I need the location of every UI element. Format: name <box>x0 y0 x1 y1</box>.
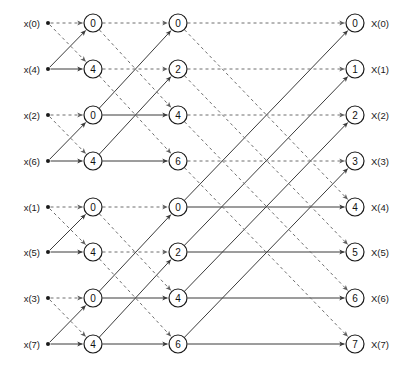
edge-cross-stage2-row4 <box>99 215 170 291</box>
twiddle-index-label: 4 <box>90 247 96 258</box>
input-node-dot <box>46 113 50 117</box>
twiddle-index-label: 2 <box>352 110 358 121</box>
input-node-dot <box>46 250 50 254</box>
input-label: x(5) <box>24 247 40 258</box>
output-label: X(1) <box>371 64 389 75</box>
labels-layer: x(0)x(4)x(2)x(6)x(1)x(5)x(3)x(7)X(0)X(1)… <box>24 18 389 350</box>
output-label: X(7) <box>371 339 389 350</box>
twiddle-index-label: 7 <box>352 339 358 350</box>
twiddle-index-label: 4 <box>90 339 96 350</box>
twiddle-index-label: 5 <box>352 247 358 258</box>
output-label: X(5) <box>371 247 389 258</box>
fft-butterfly-diagram: 040404040246024601234567 x(0)x(4)x(2)x(6… <box>0 0 405 374</box>
twiddle-index-label: 0 <box>352 18 358 29</box>
output-label: X(6) <box>371 293 389 304</box>
twiddle-index-label: 0 <box>175 18 181 29</box>
input-label: x(7) <box>24 339 40 350</box>
edge-cross-stage1-row5 <box>50 209 86 245</box>
input-label: x(4) <box>24 64 40 75</box>
twiddle-index-label: 0 <box>90 110 96 121</box>
input-label: x(2) <box>24 110 40 121</box>
twiddle-index-label: 4 <box>175 293 181 304</box>
twiddle-index-label: 0 <box>175 202 181 213</box>
input-node-dot <box>46 67 50 71</box>
edge-cross-stage1-row7 <box>50 300 86 337</box>
input-label: x(0) <box>24 18 40 29</box>
twiddle-index-label: 4 <box>175 110 181 121</box>
twiddle-index-label: 4 <box>90 156 96 167</box>
input-label: x(3) <box>24 293 40 304</box>
twiddle-index-label: 3 <box>352 156 358 167</box>
output-label: X(0) <box>371 18 389 29</box>
twiddle-index-label: 0 <box>90 202 96 213</box>
twiddle-index-label: 4 <box>90 64 96 75</box>
input-node-dot <box>46 21 50 25</box>
input-node-dot <box>46 159 50 163</box>
twiddle-index-label: 4 <box>352 202 358 213</box>
nodes-layer: 040404040246024601234567 <box>46 14 364 353</box>
twiddle-index-label: 0 <box>90 293 96 304</box>
output-label: X(2) <box>371 110 389 121</box>
input-node-dot <box>46 342 50 346</box>
output-label: X(4) <box>371 202 389 213</box>
twiddle-index-label: 0 <box>90 18 96 29</box>
input-node-dot <box>46 296 50 300</box>
input-label: x(6) <box>24 156 40 167</box>
signal-flow-graph-canvas: 040404040246024601234567 x(0)x(4)x(2)x(6… <box>0 0 405 374</box>
edge-cross-stage1-row0 <box>50 31 86 68</box>
twiddle-index-label: 6 <box>175 156 181 167</box>
twiddle-index-label: 1 <box>352 64 358 75</box>
twiddle-index-label: 6 <box>175 339 181 350</box>
edge-cross-stage1-row2 <box>50 123 86 160</box>
edge-cross-stage1-row6 <box>50 306 86 343</box>
twiddle-index-label: 2 <box>175 247 181 258</box>
edge-cross-stage1-row1 <box>50 25 86 62</box>
twiddle-index-label: 6 <box>352 293 358 304</box>
input-label: x(1) <box>24 202 40 213</box>
twiddle-index-label: 2 <box>175 64 181 75</box>
input-node-dot <box>46 205 50 209</box>
output-label: X(3) <box>371 156 389 167</box>
edge-cross-stage1-row3 <box>50 117 86 154</box>
edge-cross-stage1-row4 <box>50 214 86 250</box>
